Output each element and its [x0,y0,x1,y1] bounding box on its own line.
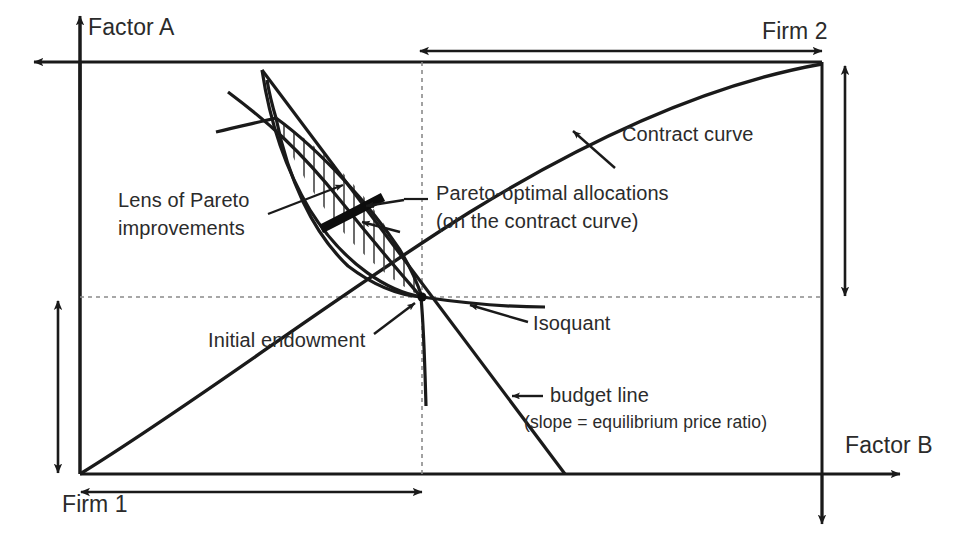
pareto-optimal-label-line2: (on the contract curve) [436,210,638,234]
lens-lower-boundary [276,118,422,297]
pareto-optimal-label-line1: Pareto-optimal allocations [436,182,669,206]
firm2-label: Firm 2 [762,18,828,45]
edgeworth-box-outline [80,62,900,516]
diagram-canvas [0,0,964,543]
budget-line [262,70,565,474]
isoquant-curves [216,70,545,406]
factor-b-axis-label: Factor B [845,432,933,459]
lens-upper-boundary [276,118,422,297]
firm1-label: Firm 1 [62,491,128,518]
initial-endowment-point [417,292,426,301]
firm2-origin-axes [34,16,80,110]
edgeworth-box-figure: Factor A Firm 2 Factor B Firm 1 Contract… [0,0,964,543]
callout-leaders [268,131,615,396]
initial-endowment-leader [374,303,415,334]
budget-line-label-line1: budget line [550,384,649,408]
lens-of-pareto-label-line2: improvements [118,217,245,241]
budget-line-label-line2: (slope = equilibrium price ratio) [524,412,767,433]
initial-endowment-label: Initial endowment [208,329,365,353]
contract-curve-label: Contract curve [622,123,753,147]
lens-of-pareto-label-line1: Lens of Pareto [118,189,250,213]
dimension-arrows [58,51,845,524]
factor-a-axis-label: Factor A [88,14,174,41]
isoquant-label: Isoquant [533,312,611,336]
